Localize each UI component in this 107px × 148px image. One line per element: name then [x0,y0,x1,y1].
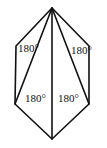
angle-sum-label-inner-left: 180° [25,92,46,104]
angle-sum-label-left: 180° [18,42,39,54]
diagonal-top-to-lower-right [52,8,89,104]
angle-sum-label-inner-right: 180° [58,92,79,104]
hexagon-diagram: 180° 180° 180° 180° [0,0,107,148]
diagonal-top-to-lower-left [15,8,52,104]
angle-sum-label-right: 180° [71,44,92,56]
